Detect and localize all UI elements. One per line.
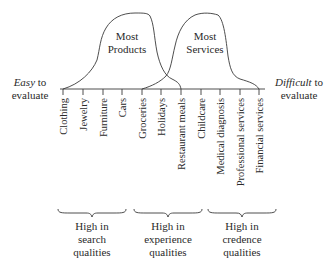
item-label-holidays: Holidays	[156, 98, 167, 136]
item-label-jewelry: Jewelry	[78, 97, 89, 130]
item-label-financial-services: Financial services	[254, 98, 265, 174]
easy-label: Easy to	[13, 76, 47, 88]
credence-group-line2: credence	[222, 233, 261, 245]
experience-group-line3: qualities	[149, 246, 186, 258]
products-label-line1: Most	[116, 30, 139, 42]
item-label-childcare: Childcare	[196, 98, 207, 139]
item-label-cars: Cars	[117, 98, 128, 117]
credence-brace	[208, 209, 276, 217]
easy-label-line2: evaluate	[12, 89, 49, 101]
item-label-restaurant-meals: Restaurant meals	[176, 98, 187, 170]
item-label-medical-diagnosis: Medical diagnosis	[215, 98, 226, 175]
evaluation-continuum-diagram: Most Products Most Services Easy to eval…	[0, 0, 331, 267]
experience-group-line2: experience	[144, 233, 192, 245]
difficult-emphasis: Difficult	[274, 76, 313, 88]
item-label-furniture: Furniture	[98, 98, 109, 137]
experience-brace	[134, 209, 202, 217]
item-label-clothing: Clothing	[58, 97, 69, 135]
difficult-rest: to	[312, 76, 324, 88]
difficult-label-line2: evaluate	[281, 89, 318, 101]
item-labels: Clothing Jewelry Furniture Cars Grocerie…	[58, 97, 265, 186]
easy-rest: to	[35, 76, 47, 88]
services-label-line1: Most	[194, 30, 217, 42]
search-group-line3: qualities	[73, 246, 110, 258]
search-brace	[58, 209, 126, 217]
search-group-line2: search	[78, 233, 107, 245]
experience-group-line1: High in	[151, 220, 185, 232]
item-label-professional-services: Professional services	[235, 98, 246, 186]
search-group-line1: High in	[75, 220, 109, 232]
credence-group-line1: High in	[225, 220, 259, 232]
easy-emphasis: Easy	[13, 76, 36, 88]
services-label-line2: Services	[186, 43, 223, 55]
difficult-label: Difficult to	[274, 76, 323, 88]
item-label-groceries: Groceries	[137, 98, 148, 139]
products-label-line2: Products	[108, 43, 147, 55]
credence-group-line3: qualities	[223, 246, 260, 258]
axis-ticks	[63, 89, 259, 95]
